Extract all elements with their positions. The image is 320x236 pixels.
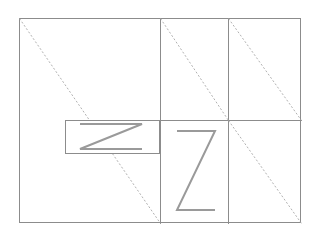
drawing-canvas — [0, 0, 320, 236]
figure-svg — [0, 0, 320, 236]
